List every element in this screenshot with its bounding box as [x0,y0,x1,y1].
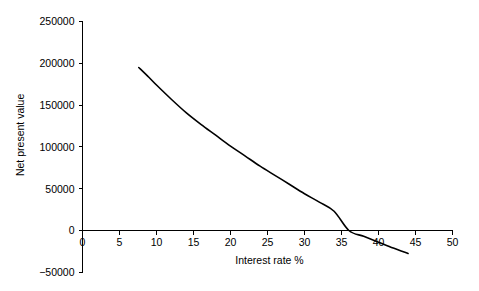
y-axis-tick-label: 50000 [45,183,74,195]
x-axis-title: Interest rate % [235,254,303,266]
x-axis-tick-label: 25 [262,236,274,248]
x-axis-tick-label: 35 [336,236,348,248]
chart-canvas: −50000050000100000150000200000250000 051… [0,0,479,291]
x-axis-tick-label: 15 [188,236,200,248]
y-axis-tick-label: 250000 [39,15,74,27]
npv-chart: −50000050000100000150000200000250000 051… [0,0,479,291]
y-axis-tick-label: 200000 [39,57,74,69]
x-axis-tick-label: 45 [410,236,422,248]
x-axis-tick-label: 5 [117,236,123,248]
x-axis-tick-label: 30 [299,236,311,248]
y-axis-tick-label: −50000 [39,266,74,278]
x-axis-tick-label: 20 [225,236,237,248]
x-axis-tick-labels: 05101520253035404550 [80,236,459,248]
y-axis-tick-labels: −50000050000100000150000200000250000 [39,15,75,278]
y-axis-tick-label: 0 [69,224,75,236]
x-axis-tick-label: 0 [80,236,86,248]
x-axis-tick-label: 10 [151,236,163,248]
x-axis-tick-label: 50 [447,236,459,248]
x-axis: 05101520253035404550 [80,231,459,248]
npv-curve-line [139,67,408,253]
x-axis-ticks [83,231,453,235]
y-axis-tick-label: 150000 [39,99,74,111]
y-axis-title: Net present value [14,94,26,176]
y-axis-tick-label: 100000 [39,141,74,153]
y-axis: −50000050000100000150000200000250000 [39,15,82,278]
